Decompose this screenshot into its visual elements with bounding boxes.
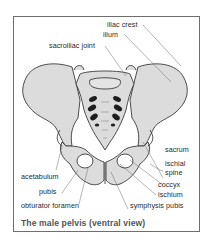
label-pubis: pubis xyxy=(39,188,56,196)
right-ilium xyxy=(130,64,187,146)
label-iliac-crest: iliac crest xyxy=(107,21,138,29)
label-ischial-spine-2: spine xyxy=(165,169,182,177)
right-obturator-foramen xyxy=(117,154,133,168)
right-sacral-ala xyxy=(126,66,136,71)
label-acetabulum: acetabulum xyxy=(21,173,59,181)
left-sacral-ala xyxy=(74,66,84,71)
sacral-promontory xyxy=(90,78,121,89)
label-ischium: ischium xyxy=(158,191,183,199)
figure-caption: The male pelvis (ventral view) xyxy=(21,218,145,228)
label-ilium: ilium xyxy=(103,31,118,39)
label-ischial-spine-1: ischial xyxy=(165,160,185,168)
label-coccyx: coccyx xyxy=(158,181,180,189)
label-symphysis-pubis: symphysis pubis xyxy=(130,202,183,210)
label-obturator-foramen: obturator foramen xyxy=(21,202,79,210)
label-sacrum: sacrum xyxy=(165,146,189,154)
label-sacroiliac-joint: sacroiliac joint xyxy=(49,42,95,50)
left-obturator-foramen xyxy=(77,154,93,168)
left-ilium xyxy=(23,64,80,146)
